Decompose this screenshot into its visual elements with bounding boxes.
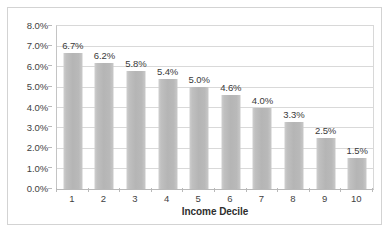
x-tick-label: 8 [290,193,295,204]
bar[interactable] [253,108,272,190]
bar[interactable] [190,87,209,189]
bar-slot: 5.8% [120,26,152,189]
bar[interactable] [126,71,145,189]
y-tick-label: 6.0% [27,60,48,71]
bar[interactable] [221,95,240,189]
y-tick-label: 8.0% [27,20,48,31]
x-tick-label: 6 [227,193,232,204]
bar-value-label: 6.2% [94,50,115,61]
bar-slot: 5.0% [183,26,215,189]
x-tick-label: 7 [259,193,264,204]
y-tick-mark [48,126,52,127]
y-tick-label: 2.0% [27,142,48,153]
bar-slot: 4.6% [215,26,247,189]
bar[interactable] [284,122,303,189]
y-tick-label: 7.0% [27,40,48,51]
bar[interactable] [348,158,367,189]
bar[interactable] [316,138,335,189]
y-tick-mark [48,25,52,26]
x-tick-label: 5 [196,193,201,204]
y-tick-mark [48,86,52,87]
bar-value-label: 3.3% [283,109,304,120]
y-tick-mark [48,45,52,46]
x-tick-mark [309,188,310,192]
x-tick-mark [119,188,120,192]
y-tick-label: 5.0% [27,81,48,92]
bar-value-label: 4.6% [220,82,241,93]
y-tick-label: 3.0% [27,121,48,132]
bar-slot: 1.5% [341,26,373,189]
x-tick-label: 1 [69,193,74,204]
bar-value-label: 5.0% [189,74,210,85]
bar-slot: 6.2% [89,26,121,189]
bar-slot: 3.3% [278,26,310,189]
bar-slot: 5.4% [152,26,184,189]
y-tick-mark [48,188,52,189]
x-tick-label: 2 [101,193,106,204]
bar-slot: 2.5% [310,26,342,189]
bar-value-label: 6.7% [62,40,83,51]
bar-slot: 4.0% [247,26,279,189]
bar-value-label: 5.8% [125,58,146,69]
y-tick-label: 1.0% [27,162,48,173]
x-tick-label: 4 [164,193,169,204]
bar-value-label: 2.5% [315,125,336,136]
y-tick-mark [48,106,52,107]
x-tick-mark [277,188,278,192]
x-tick-mark [182,188,183,192]
chart-container: 8.0%7.0%6.0%5.0%4.0%3.0%2.0%1.0%0.0% 6.7… [7,7,382,225]
bar-value-label: 1.5% [347,145,368,156]
bar-value-label: 5.4% [157,66,178,77]
bar[interactable] [63,53,82,190]
bar[interactable] [158,79,177,189]
x-tick-label: 3 [132,193,137,204]
bar-value-label: 4.0% [252,95,273,106]
x-tick-label: 10 [351,193,362,204]
y-tick-label: 0.0% [27,183,48,194]
y-tick-mark [48,65,52,66]
y-tick-mark [48,167,52,168]
y-tick-mark [48,147,52,148]
x-tick-label: 9 [322,193,327,204]
bar-slot: 6.7% [57,26,89,189]
x-tick-mark [88,188,89,192]
bar[interactable] [95,63,114,189]
y-axis: 8.0%7.0%6.0%5.0%4.0%3.0%2.0%1.0%0.0% [8,25,52,190]
y-tick-label: 4.0% [27,101,48,112]
x-axis-title: Income Decile [56,206,374,217]
x-tick-mark [214,188,215,192]
x-tick-mark [246,188,247,192]
x-tick-mark [56,188,57,192]
x-tick-mark [340,188,341,192]
plot-area: 6.7%6.2%5.8%5.4%5.0%4.6%4.0%3.3%2.5%1.5% [56,25,374,190]
x-tick-mark [151,188,152,192]
x-tick-mark [372,188,373,192]
